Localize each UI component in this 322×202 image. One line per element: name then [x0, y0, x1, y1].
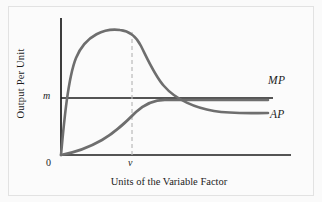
- plot-canvas: [0, 0, 322, 202]
- figure-container: Output Per Unit Units of the Variable Fa…: [0, 0, 322, 202]
- y-tick-label-m: m: [43, 90, 50, 101]
- ap-curve-label: AP: [270, 108, 285, 120]
- x-tick-label-v: v: [128, 157, 132, 168]
- y-axis-label: Output Per Unit: [15, 34, 26, 134]
- mp-curve-label: MP: [268, 74, 285, 86]
- mp-curve: [61, 30, 268, 155]
- ap-curve: [61, 100, 268, 155]
- x-axis-label: Units of the Variable Factor: [84, 176, 254, 187]
- origin-tick-label: 0: [46, 157, 51, 168]
